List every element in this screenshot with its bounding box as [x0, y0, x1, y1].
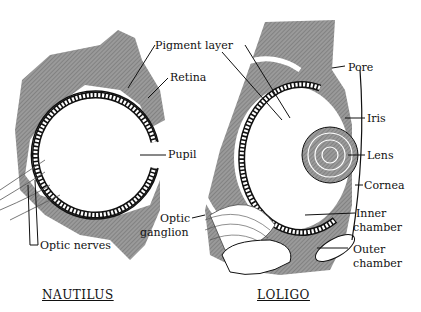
label-retina: Retina — [170, 72, 206, 83]
title-loligo: LOLIGO — [257, 288, 310, 302]
loligo-eye — [192, 20, 365, 275]
label-outer-chamber-2: chamber — [353, 258, 402, 269]
label-optic-ganglion-2: ganglion — [140, 227, 188, 238]
label-pigment-layer: Pigment layer — [155, 40, 233, 51]
label-pupil: Pupil — [168, 149, 197, 160]
label-optic-nerves: Optic nerves — [40, 240, 111, 251]
label-inner-chamber-2: chamber — [353, 222, 402, 233]
label-pore: Pore — [348, 62, 373, 73]
label-iris: Iris — [367, 113, 386, 124]
label-outer-chamber-1: Outer — [353, 244, 385, 255]
label-lens: Lens — [367, 150, 394, 161]
label-inner-chamber-1: Inner — [356, 208, 386, 219]
title-nautilus: NAUTILUS — [42, 288, 114, 302]
label-cornea: Cornea — [364, 180, 404, 191]
label-optic-ganglion-1: Optic — [160, 213, 190, 224]
